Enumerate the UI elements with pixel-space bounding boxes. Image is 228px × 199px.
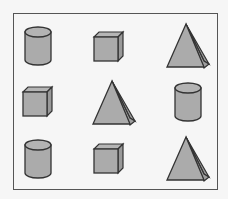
shapes-canvas: [0, 0, 228, 199]
cube-icon: [94, 144, 123, 173]
pyramid-icon: [167, 137, 209, 181]
cylinder-icon: [25, 140, 51, 178]
cube-icon: [94, 32, 123, 61]
cylinder-icon: [25, 27, 51, 65]
cylinder-icon: [175, 83, 201, 121]
pyramid-icon: [93, 81, 135, 125]
cube-icon: [23, 87, 52, 116]
pyramid-icon: [167, 24, 209, 68]
